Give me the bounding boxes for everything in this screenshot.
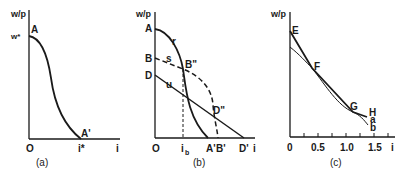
- caption-b: (b): [193, 157, 205, 168]
- x-label-D-prime: D': [239, 143, 249, 154]
- label-D: D: [145, 70, 152, 81]
- x-label-ib-sub: b: [185, 149, 189, 156]
- x-label-A-prime: A': [206, 143, 216, 154]
- x-tick-1-5: 1.5: [368, 142, 382, 153]
- origin-label: O: [26, 143, 34, 154]
- point-F: F: [314, 61, 320, 72]
- y-axis-label: w/p: [135, 9, 152, 19]
- x-tick-0-5: 0.5: [311, 142, 325, 153]
- x-label-B-prime: B': [216, 143, 226, 154]
- curve-r: [155, 29, 208, 138]
- panel-c: w/p E F G H a b 0 0.5 1.0 1.5 i (c): [270, 9, 395, 168]
- x-axis-label: i: [391, 142, 394, 153]
- y-axis-label: w/p: [10, 9, 27, 19]
- x-label-ib: i: [181, 143, 184, 154]
- point-G: G: [350, 101, 358, 112]
- label-B: B: [145, 53, 152, 64]
- point-A-prime: A': [81, 128, 91, 139]
- y-axis-label: w/p: [270, 9, 287, 19]
- caption-c: (c): [330, 157, 342, 168]
- panel-b: w/p A B D r s u B" D" O i b A' B' D' i (…: [135, 9, 256, 168]
- x-tick-1-0: 1.0: [340, 142, 354, 153]
- x-axis-label: i: [116, 143, 119, 154]
- point-B-double-prime: B": [185, 59, 197, 70]
- label-r: r: [172, 36, 176, 47]
- origin-label: O: [152, 143, 160, 154]
- label-b: b: [370, 122, 376, 133]
- label-w-star: w*: [10, 32, 21, 41]
- panel-a: w/p w* A A' O i* i (a): [10, 9, 120, 168]
- point-D-double-prime: D": [213, 105, 225, 116]
- point-A: A: [31, 24, 38, 35]
- point-E: E: [292, 25, 299, 36]
- x-tick-0: 0: [287, 142, 293, 153]
- x-axis-label: i: [253, 143, 256, 154]
- diagram-canvas: w/p w* A A' O i* i (a) w/p A B D r s u B…: [0, 0, 406, 181]
- curve-a: [29, 36, 81, 139]
- label-u: u: [166, 79, 172, 90]
- caption-a: (a): [36, 157, 48, 168]
- x-tick-i-star: i*: [78, 143, 85, 154]
- label-A: A: [145, 23, 152, 34]
- label-s: s: [166, 53, 172, 64]
